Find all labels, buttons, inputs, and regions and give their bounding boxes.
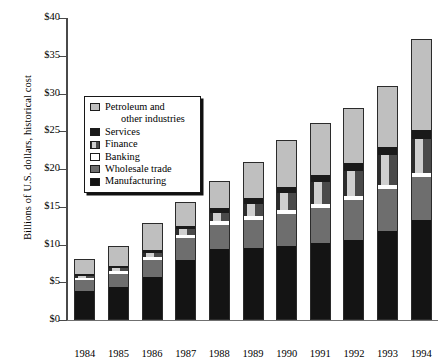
legend-item-wholesale: Wholesale trade <box>90 163 195 175</box>
bar-segment-wholesale-trade <box>175 238 196 260</box>
bar-segment-services <box>377 147 398 155</box>
bar-1992 <box>343 108 364 320</box>
bar-segment-wholesale-trade <box>142 260 163 277</box>
bar-1984 <box>74 259 95 320</box>
legend-item-finance: Finance <box>90 138 195 150</box>
legend-item-petroleum: Petroleum and <box>90 101 195 113</box>
bar-segment-finance <box>276 193 297 210</box>
bar-segment-manufacturing <box>243 248 264 320</box>
bar-1987 <box>175 202 196 320</box>
bar-segment-wholesale-trade <box>243 220 264 248</box>
y-tick <box>59 56 67 57</box>
bar-segment-wholesale-trade <box>310 208 331 243</box>
bar-segment-petroleum-and-other-industries <box>175 202 196 225</box>
bar-segment-petroleum-and-other-industries <box>243 162 264 198</box>
bar-segment-petroleum-and-other-industries <box>377 86 398 147</box>
x-tick-label-1994: 1994 <box>398 348 442 357</box>
bar-segment-finance <box>343 171 364 197</box>
bar-segment-manufacturing <box>377 231 398 320</box>
bar-segment-petroleum-and-other-industries <box>276 140 297 187</box>
bar-segment-finance <box>377 155 398 184</box>
legend-item-manufacturing: Manufacturing <box>90 175 195 187</box>
x-axis-line <box>66 320 438 321</box>
bar-segment-manufacturing <box>411 220 432 320</box>
bar-segment-services <box>343 163 364 171</box>
bar-segment-manufacturing <box>276 246 297 320</box>
y-tick-label: $0 <box>20 314 60 325</box>
y-tick-label: $5 <box>20 276 60 287</box>
legend-swatch-banking-icon <box>90 153 100 161</box>
bar-segment-manufacturing <box>310 243 331 320</box>
legend-label-manufacturing: Manufacturing <box>105 175 166 187</box>
bar-segment-wholesale-trade <box>108 274 129 287</box>
y-tick-label: $40 <box>20 12 60 23</box>
bar-segment-petroleum-and-other-industries <box>74 259 95 274</box>
legend-label-wholesale: Wholesale trade <box>105 163 172 175</box>
bar-segment-services <box>411 130 432 139</box>
bar-1986 <box>142 223 163 320</box>
bar-segment-finance <box>243 204 264 216</box>
y-tick-label: $20 <box>20 163 60 174</box>
y-tick-label: $25 <box>20 125 60 136</box>
bar-segment-petroleum-and-other-industries <box>209 181 230 208</box>
legend-label-petroleum-cont: other industries <box>90 113 195 125</box>
bar-segment-wholesale-trade <box>276 214 297 246</box>
bar-segment-manufacturing <box>343 240 364 320</box>
bar-segment-petroleum-and-other-industries <box>108 246 129 266</box>
legend-item-banking: Banking <box>90 151 195 163</box>
legend-swatch-petroleum-icon <box>90 103 100 111</box>
bar-segment-wholesale-trade <box>411 177 432 221</box>
legend-label-banking: Banking <box>105 151 140 163</box>
y-tick <box>59 320 67 321</box>
bar-segment-wholesale-trade <box>377 189 398 231</box>
bar-segment-manufacturing <box>74 291 95 320</box>
y-tick <box>59 282 67 283</box>
bar-1991 <box>310 123 331 320</box>
bar-segment-finance <box>411 139 432 173</box>
y-tick <box>59 131 67 132</box>
bar-segment-wholesale-trade <box>209 225 230 249</box>
y-tick <box>59 18 67 19</box>
bar-segment-manufacturing <box>175 260 196 320</box>
y-tick-label: $30 <box>20 88 60 99</box>
bar-segment-finance <box>209 213 230 221</box>
legend-swatch-manufacturing-icon <box>90 178 100 186</box>
bar-1989 <box>243 162 264 320</box>
bar-segment-petroleum-and-other-industries <box>411 39 432 130</box>
y-tick-label: $15 <box>20 201 60 212</box>
stacked-bar-chart: Billions of U.S. dollars, historical cos… <box>0 0 442 357</box>
legend-item-services: Services <box>90 126 195 138</box>
bar-segment-wholesale-trade <box>343 200 364 240</box>
y-tick <box>59 207 67 208</box>
bar-segment-petroleum-and-other-industries <box>142 223 163 250</box>
legend-swatch-wholesale-icon <box>90 165 100 173</box>
bar-segment-manufacturing <box>108 287 129 320</box>
bar-segment-wholesale-trade <box>74 280 95 291</box>
legend-swatch-services-icon <box>90 128 100 136</box>
y-tick <box>59 169 67 170</box>
legend-swatch-finance-icon <box>90 141 100 149</box>
bar-segment-petroleum-and-other-industries <box>343 108 364 163</box>
bar-segment-manufacturing <box>142 277 163 320</box>
y-tick <box>59 94 67 95</box>
bar-segment-finance <box>310 182 331 204</box>
bar-segment-services <box>310 175 331 182</box>
bar-1994 <box>411 39 432 320</box>
bar-1993 <box>377 86 398 320</box>
bar-1988 <box>209 181 230 320</box>
legend-label-services: Services <box>105 126 140 138</box>
bar-1990 <box>276 140 297 320</box>
bar-segment-manufacturing <box>209 249 230 320</box>
y-tick-label: $35 <box>20 50 60 61</box>
bar-1985 <box>108 246 129 320</box>
chart-legend: Petroleum and other industries Services … <box>84 96 201 193</box>
y-tick-label: $10 <box>20 239 60 250</box>
legend-label-petroleum: Petroleum and <box>105 101 165 113</box>
legend-label-finance: Finance <box>105 138 138 150</box>
bar-segment-petroleum-and-other-industries <box>310 123 331 175</box>
y-tick <box>59 245 67 246</box>
